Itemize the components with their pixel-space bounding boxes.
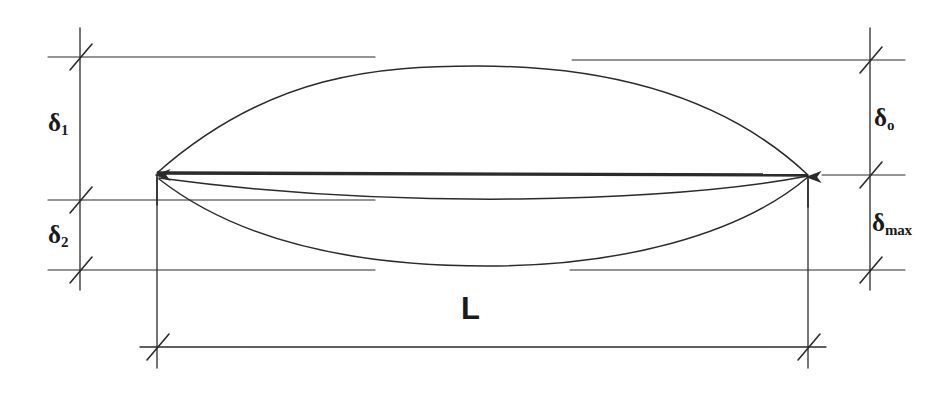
label-span-length: L	[461, 293, 480, 324]
delta-max-subscript: max	[885, 222, 912, 238]
delta-zero-symbol: δ	[874, 104, 887, 131]
lower-sag-curve	[159, 177, 808, 266]
diagram-canvas	[0, 0, 952, 410]
delta-one-symbol: δ	[48, 109, 61, 136]
middle-sag-curve	[159, 176, 808, 199]
sag-diagram: δ1 δ2 δo δmax L	[0, 0, 952, 410]
label-delta-zero: δo	[874, 105, 894, 133]
delta-one-subscript: 1	[61, 122, 68, 138]
delta-zero-subscript: o	[887, 117, 894, 133]
delta-two-symbol: δ	[48, 221, 61, 248]
label-delta-two: δ2	[48, 222, 68, 250]
label-delta-one: δ1	[48, 110, 68, 138]
chord-line	[157, 173, 808, 175]
delta-max-symbol: δ	[872, 209, 885, 236]
upper-curve	[157, 66, 808, 175]
label-delta-max: δmax	[872, 210, 912, 238]
delta-two-subscript: 2	[61, 234, 68, 250]
